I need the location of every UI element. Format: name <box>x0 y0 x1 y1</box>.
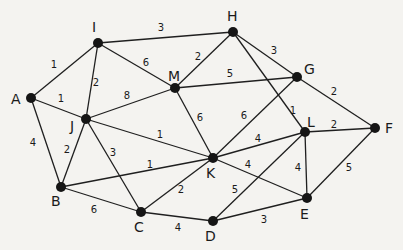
node-c <box>136 207 146 217</box>
edge-weight-label: 8 <box>124 90 130 101</box>
node-label-j: J <box>69 118 74 134</box>
node-label-e: E <box>300 206 309 222</box>
node-label-h: H <box>227 8 238 24</box>
edge-weight-label: 6 <box>143 57 149 68</box>
edge-m-g <box>175 77 297 88</box>
node-e <box>302 193 312 203</box>
node-m <box>170 83 180 93</box>
edge-l-e <box>305 132 307 198</box>
edge-weight-label: 2 <box>331 86 337 97</box>
edge-weight-label: 4 <box>245 159 251 170</box>
node-i <box>93 38 103 48</box>
edge-weight-label: 5 <box>346 162 352 173</box>
edge-weight-label: 4 <box>255 133 261 144</box>
edge-a-i <box>31 43 98 98</box>
node-h <box>228 27 238 37</box>
edge-b-k <box>61 158 213 187</box>
edge-e-f <box>307 128 375 198</box>
edge-weight-label: 4 <box>30 137 36 148</box>
edge-weight-label: 2 <box>178 184 184 195</box>
edge-layer <box>31 32 375 221</box>
node-f <box>370 123 380 133</box>
edge-weight-label: 2 <box>64 144 70 155</box>
edge-weight-label: 4 <box>175 222 181 233</box>
edge-weight-label: 3 <box>261 214 267 225</box>
node-label-l: L <box>307 114 315 130</box>
edge-weight-label: 2 <box>331 119 337 130</box>
edge-weight-label: 3 <box>110 147 116 158</box>
node-k <box>208 153 218 163</box>
edge-i-h <box>98 32 233 43</box>
edge-weight-label: 1 <box>147 159 153 170</box>
edge-i-m <box>98 43 175 88</box>
edge-weight-label: 1 <box>290 105 296 116</box>
node-label-g: G <box>304 61 315 77</box>
edge-weight-label: 2 <box>195 51 201 62</box>
edge-weight-label: 1 <box>58 93 64 104</box>
edge-weight-label: 1 <box>51 59 57 70</box>
edge-weight-label: 3 <box>158 22 164 33</box>
node-b <box>56 182 66 192</box>
node-j <box>81 114 91 124</box>
node-label-k: K <box>206 165 216 181</box>
node-d <box>208 216 218 226</box>
node-label-a: A <box>11 91 21 107</box>
edge-k-e <box>213 158 307 198</box>
edge-weight-label: 6 <box>241 110 247 121</box>
edge-weight-label: 2 <box>93 77 99 88</box>
edge-weight-label: 1 <box>157 129 163 140</box>
node-layer <box>26 27 380 226</box>
edge-m-j <box>86 88 175 119</box>
node-label-i: I <box>92 19 96 35</box>
graph-diagram: 1143622318566212316244453245 AIHMGJLFKBC… <box>0 0 403 250</box>
edge-weight-label: 5 <box>227 68 233 79</box>
node-label-c: C <box>134 219 144 235</box>
edge-l-f <box>305 128 375 132</box>
node-label-m: M <box>168 68 180 84</box>
node-label-f: F <box>385 120 393 136</box>
edge-weight-label: 6 <box>197 112 203 123</box>
edge-weight-label: 4 <box>295 162 301 173</box>
edge-c-d <box>141 212 213 221</box>
edge-h-m <box>175 32 233 88</box>
node-a <box>26 93 36 103</box>
edge-weight-label: 3 <box>271 45 277 56</box>
edge-weight-label: 5 <box>232 184 238 195</box>
node-label-d: D <box>205 228 216 244</box>
edge-h-g <box>233 32 297 77</box>
node-g <box>292 72 302 82</box>
node-label-b: B <box>51 193 61 209</box>
edge-weight-label: 6 <box>91 204 97 215</box>
